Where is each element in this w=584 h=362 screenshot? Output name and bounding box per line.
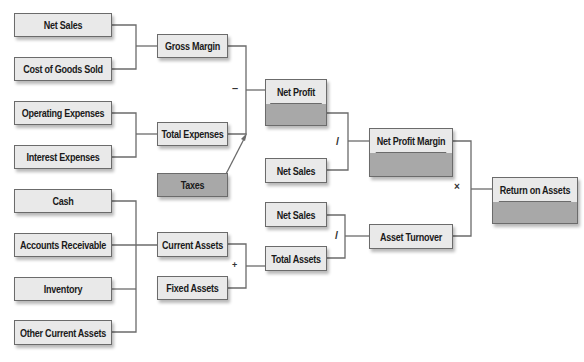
node-cash: Cash — [14, 189, 112, 213]
node-taxes: Taxes — [157, 173, 228, 197]
node-net-sales-turnover: Net Sales — [265, 202, 327, 227]
operator-divide-margin: / — [336, 135, 339, 147]
node-label: Total Expenses — [163, 123, 222, 145]
connector — [112, 25, 136, 69]
node-other-current-assets: Other Current Assets — [14, 320, 112, 345]
node-net-sales: Net Sales — [14, 13, 112, 37]
node-inventory: Inventory — [14, 277, 112, 301]
operator-divide-turnover: / — [335, 229, 338, 241]
node-label: Other Current Assets — [22, 321, 105, 344]
node-net-profit: Net Profit — [265, 79, 327, 126]
node-label: Net Sales — [270, 203, 322, 226]
node-return-on-assets: Return on Assets — [492, 177, 578, 224]
operator-subtract: – — [232, 82, 238, 94]
node-label: Inventory — [22, 278, 105, 300]
node-gross-margin: Gross Margin — [157, 34, 228, 58]
node-label: Taxes — [163, 174, 222, 196]
node-label: Accounts Receivable — [22, 234, 105, 256]
node-net-sales-margin: Net Sales — [265, 158, 327, 183]
node-value-field — [266, 104, 326, 125]
node-interest-expenses: Interest Expenses — [14, 145, 112, 169]
node-label: Net Profit — [270, 80, 322, 104]
node-value-field — [370, 153, 452, 176]
node-current-assets: Current Assets — [157, 232, 228, 257]
node-label: Current Assets — [163, 233, 222, 256]
node-label: Cost of Goods Sold — [22, 58, 105, 80]
node-label: Interest Expenses — [22, 146, 105, 168]
operator-add: + — [232, 260, 237, 270]
node-label: Net Sales — [22, 14, 105, 36]
node-label: Total Assets — [270, 247, 322, 270]
connector — [112, 201, 136, 332]
node-cost-of-goods-sold: Cost of Goods Sold — [14, 57, 112, 81]
connector — [112, 113, 136, 157]
node-asset-turnover: Asset Turnover — [369, 224, 453, 249]
node-total-assets: Total Assets — [265, 246, 327, 271]
node-label: Operating Expenses — [22, 102, 105, 124]
node-net-profit-margin: Net Profit Margin — [369, 128, 453, 177]
node-label: Return on Assets — [499, 178, 571, 202]
node-fixed-assets: Fixed Assets — [157, 276, 228, 300]
node-total-expenses: Total Expenses — [157, 122, 228, 146]
node-operating-expenses: Operating Expenses — [14, 101, 112, 125]
node-label: Net Profit Margin — [376, 129, 447, 153]
operator-multiply: × — [454, 181, 460, 192]
connector — [226, 137, 245, 174]
node-label: Net Sales — [270, 159, 322, 182]
node-label: Asset Turnover — [376, 225, 447, 248]
node-label: Gross Margin — [163, 35, 222, 57]
node-value-field — [493, 202, 577, 223]
node-accounts-receivable: Accounts Receivable — [14, 233, 112, 257]
node-label: Fixed Assets — [163, 277, 222, 299]
node-label: Cash — [22, 190, 105, 212]
